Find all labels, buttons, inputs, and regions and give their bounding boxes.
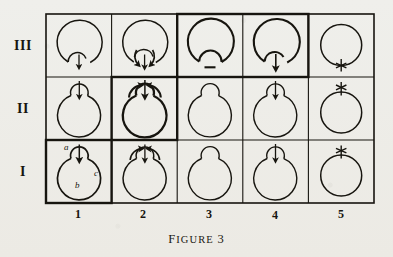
cell-III-3-inner-lobe [199,51,221,62]
cell-I-1-label-b: b [75,180,80,190]
figure-caption-initial: F [168,232,176,246]
cell-I-1-label-a: a [64,142,69,152]
cell-I-5-glyph [321,146,362,197]
cell-II-3-glyph [188,84,231,137]
cell-III-4-glyph [254,19,300,69]
cell-II-1-glyph [58,81,101,137]
cell-III-3-glyph [188,19,234,68]
cell-I-1-label-a-text: a [64,142,69,152]
cell-III-3-outer-circle [188,19,234,62]
cell-II-2-glyph [123,80,167,137]
cell-III-5-glyph [321,25,362,72]
cell-II-2-outer-circle [123,96,167,138]
cell-I-4-outer-circle [254,159,297,200]
cell-II-1-outer-circle [58,96,101,137]
cell-II-4-glyph [254,81,297,137]
cell-II-5-circle [321,92,362,133]
figure-caption-word: IGURE [176,234,214,245]
figure-3: III II I 1 2 3 4 5 [0,0,393,257]
cell-III-1-glyph [57,20,102,67]
figure-caption-number: 3 [218,232,225,246]
cell-III-4-outer-circle [254,19,300,63]
cell-I-1-label-b-text: b [75,180,80,190]
cell-III-4-inner-lobe [265,52,284,61]
cell-I-2-outer-circle [123,159,166,200]
cell-I-3-outer-circle [188,159,231,200]
cell-I-5-asterisk-icon [336,146,346,159]
cell-I-1-label-c-text: c [94,168,98,178]
cell-I-2-glyph [123,145,166,200]
cell-II-5-asterisk-icon [336,82,346,96]
cell-II-4-outer-circle [254,96,297,137]
cell-I-3-glyph [188,147,231,200]
cell-III-1-inner-lobe [68,53,86,62]
cell-I-3-inner-lobe [201,147,219,159]
cell-I-1-label-c: c [94,168,98,178]
cell-I-4-glyph [254,144,297,200]
cell-II-5-glyph [321,82,362,133]
cell-I-5-circle [321,155,362,196]
figure-drawing [0,0,393,257]
figure-caption: FIGURE 3 [0,232,393,247]
cell-III-2-glyph [123,20,168,67]
cell-II-3-inner-lobe [201,84,219,96]
cell-II-3-outer-circle [188,96,231,137]
